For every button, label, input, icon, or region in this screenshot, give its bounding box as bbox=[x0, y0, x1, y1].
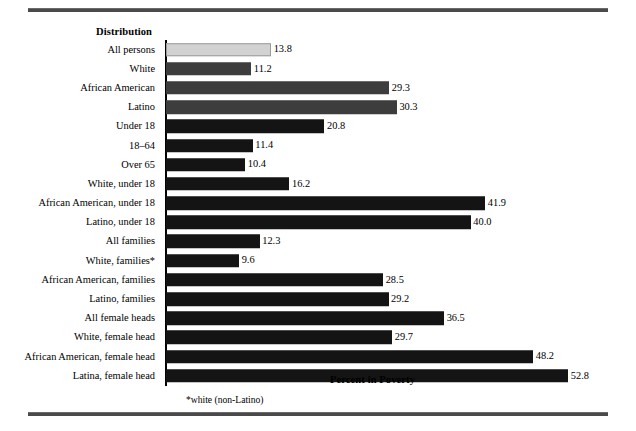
bar-row-label: White, female head bbox=[74, 332, 155, 342]
bar-wrapper: 36.5 bbox=[166, 311, 444, 325]
bar-value-label: 16.2 bbox=[289, 179, 310, 189]
footnote-text: *white (non-Latino) bbox=[186, 394, 264, 405]
bar bbox=[166, 350, 533, 364]
bar-wrapper: 10.4 bbox=[166, 158, 245, 172]
bar-row-label: All persons bbox=[107, 44, 155, 54]
bar-row-label: African American, families bbox=[42, 275, 155, 285]
bar bbox=[166, 196, 485, 210]
bar-row: Over 6510.4 bbox=[0, 155, 636, 174]
bar-row-label: African American, female head bbox=[25, 351, 155, 361]
bar-value-label: 29.7 bbox=[392, 332, 413, 342]
bottom-divider-rule bbox=[28, 412, 608, 416]
bar-row: White, under 1816.2 bbox=[0, 174, 636, 193]
bar-wrapper: 48.2 bbox=[166, 350, 533, 364]
x-axis-title: Percent in Poverty bbox=[330, 374, 415, 385]
bar-row-label: White, under 18 bbox=[88, 179, 155, 189]
bar-row: All families12.3 bbox=[0, 232, 636, 251]
bar-wrapper: 29.7 bbox=[166, 331, 392, 345]
bar-value-label: 29.3 bbox=[389, 83, 410, 93]
bar bbox=[166, 235, 260, 249]
bar-value-label: 40.0 bbox=[471, 217, 492, 227]
bar-wrapper: 13.8 bbox=[166, 43, 271, 57]
bar-wrapper: 29.3 bbox=[166, 81, 389, 95]
bar-row: 18–6411.4 bbox=[0, 136, 636, 155]
bar-value-label: 41.9 bbox=[485, 198, 506, 208]
bar-row: African American, female head48.2 bbox=[0, 347, 636, 366]
bar-value-label: 12.3 bbox=[260, 236, 281, 246]
bar-row-label: African American, under 18 bbox=[38, 198, 155, 208]
bar bbox=[166, 177, 289, 191]
bar-row-label: 18–64 bbox=[129, 140, 155, 150]
bar-wrapper: 9.6 bbox=[166, 254, 239, 268]
bar-row: Latino, families29.2 bbox=[0, 289, 636, 308]
bar-value-label: 13.8 bbox=[271, 44, 292, 54]
bar bbox=[166, 216, 471, 230]
bar bbox=[166, 331, 392, 345]
bar bbox=[166, 100, 397, 114]
bar-wrapper: 41.9 bbox=[166, 196, 485, 210]
bar-value-label: 28.5 bbox=[383, 275, 404, 285]
bar-rows-container: All persons13.8White11.2African American… bbox=[0, 40, 636, 385]
bar-row-label: All female heads bbox=[85, 313, 155, 323]
chart-plot-area: Distribution All persons13.8White11.2Afr… bbox=[0, 26, 636, 386]
bar-value-label: 29.2 bbox=[389, 294, 410, 304]
bar-row-label: Latina, female head bbox=[73, 371, 155, 381]
bar-row: African American, under 1841.9 bbox=[0, 194, 636, 213]
bar-value-label: 10.4 bbox=[245, 160, 266, 170]
bar bbox=[166, 139, 253, 153]
bar-row-label: Latino, under 18 bbox=[86, 217, 155, 227]
bar bbox=[166, 81, 389, 95]
bar-row: African American29.3 bbox=[0, 78, 636, 97]
bar-row-label: White bbox=[130, 64, 155, 74]
bar bbox=[166, 254, 239, 268]
bar-value-label: 9.6 bbox=[239, 255, 255, 265]
bar bbox=[166, 158, 245, 172]
bar-row: All persons13.8 bbox=[0, 40, 636, 59]
bar bbox=[166, 273, 383, 287]
poverty-bar-chart-figure: Distribution All persons13.8White11.2Afr… bbox=[0, 0, 636, 431]
bar bbox=[166, 62, 251, 76]
bar bbox=[166, 311, 444, 325]
bar-row-label: Latino, families bbox=[89, 294, 155, 304]
bar-row: White, families*9.6 bbox=[0, 251, 636, 270]
bar-value-label: 20.8 bbox=[324, 121, 345, 131]
bar-row-label: White, families* bbox=[86, 255, 155, 265]
bar-row: Latino, under 1840.0 bbox=[0, 213, 636, 232]
bar-row-label: Over 65 bbox=[121, 160, 155, 170]
bar-value-label: 11.2 bbox=[251, 64, 271, 74]
bar-row: White11.2 bbox=[0, 59, 636, 78]
bar-value-label: 36.5 bbox=[444, 313, 465, 323]
bar-value-label: 30.3 bbox=[397, 102, 418, 112]
bar-wrapper: 29.2 bbox=[166, 292, 389, 306]
bar-row: Under 1820.8 bbox=[0, 117, 636, 136]
distribution-column-header: Distribution bbox=[96, 26, 152, 37]
bar-value-label: 52.8 bbox=[568, 371, 589, 381]
bar-wrapper: 20.8 bbox=[166, 120, 324, 134]
bar-row-label: Under 18 bbox=[116, 121, 155, 131]
bar-row-label: African American bbox=[80, 83, 155, 93]
bar-row: Latina, female head52.8 bbox=[0, 366, 636, 385]
bar bbox=[166, 292, 389, 306]
bar-wrapper: 40.0 bbox=[166, 216, 471, 230]
bar bbox=[166, 120, 324, 134]
bar-row: All female heads36.5 bbox=[0, 309, 636, 328]
bar-row-label: All families bbox=[106, 236, 155, 246]
bar-row: Latino30.3 bbox=[0, 98, 636, 117]
bar-wrapper: 12.3 bbox=[166, 235, 260, 249]
bar-wrapper: 16.2 bbox=[166, 177, 289, 191]
bar-row: African American, families28.5 bbox=[0, 270, 636, 289]
bar bbox=[166, 43, 271, 57]
bar-row: White, female head29.7 bbox=[0, 328, 636, 347]
bar-value-label: 48.2 bbox=[533, 351, 554, 361]
bar-row-label: Latino bbox=[128, 102, 155, 112]
bar-wrapper: 30.3 bbox=[166, 100, 397, 114]
bar-value-label: 11.4 bbox=[253, 140, 273, 150]
bar-wrapper: 11.2 bbox=[166, 62, 251, 76]
bar-wrapper: 11.4 bbox=[166, 139, 253, 153]
bar-wrapper: 28.5 bbox=[166, 273, 383, 287]
top-divider-rule bbox=[28, 8, 608, 12]
